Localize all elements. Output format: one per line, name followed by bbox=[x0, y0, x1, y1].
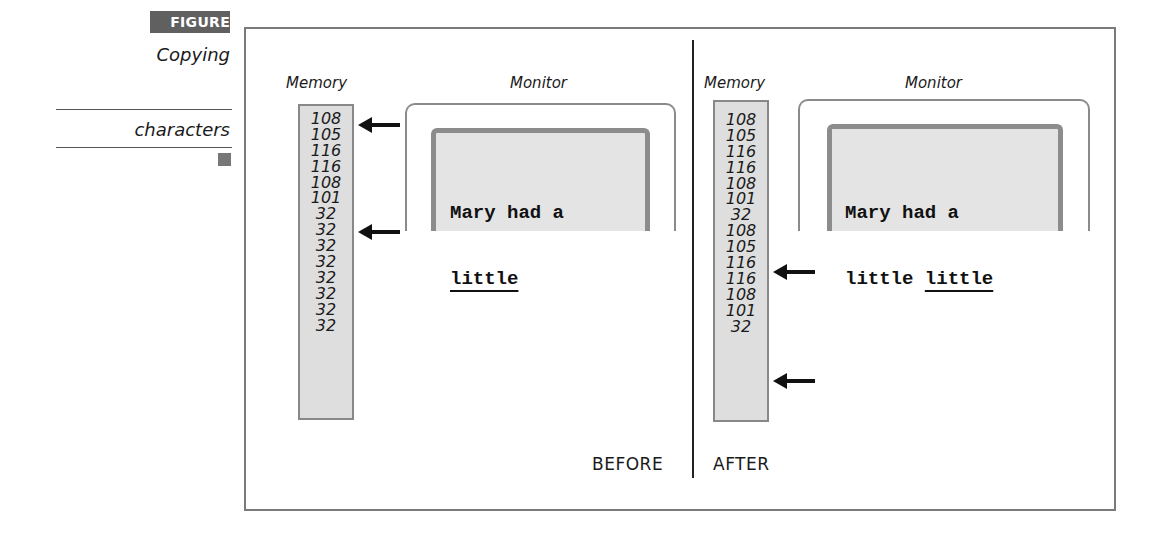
before-monitor-label: Monitor bbox=[510, 74, 567, 92]
before-memory-column: 108 105 116 116 108 101 32 32 32 32 32 3… bbox=[298, 104, 354, 420]
arrow-left-icon bbox=[358, 117, 402, 133]
before-monitor-screen: Mary had a little bbox=[431, 128, 650, 231]
arrow-left-icon bbox=[773, 264, 817, 280]
screen-line-2-plain: little bbox=[845, 268, 925, 290]
arrow-left-icon bbox=[773, 373, 817, 389]
after-monitor-label: Monitor bbox=[905, 74, 962, 92]
before-label: BEFORE bbox=[592, 454, 663, 474]
memory-cell: 32 bbox=[300, 318, 352, 334]
caption-rule-top bbox=[56, 109, 232, 110]
arrow-left-icon bbox=[358, 224, 402, 240]
after-memory-column: 108 105 116 116 108 101 32 108 105 116 1… bbox=[713, 100, 769, 422]
after-label: AFTER bbox=[713, 454, 770, 474]
before-memory-label: Memory bbox=[286, 74, 347, 92]
screen-line-2-underlined: little bbox=[925, 268, 993, 290]
figure-badge: FIGURE 16-3 bbox=[150, 11, 230, 33]
after-monitor-screen: Mary had a little little bbox=[827, 124, 1063, 231]
caption-line-1: Copying bbox=[157, 44, 231, 65]
screen-line-1: Mary had a bbox=[845, 202, 993, 224]
screen-line-2: little bbox=[450, 268, 564, 290]
screen-line-1: Mary had a bbox=[450, 202, 564, 224]
caption-rule-bottom bbox=[56, 147, 232, 148]
screen-line-2: little little bbox=[845, 268, 993, 290]
memory-cell: 32 bbox=[715, 319, 767, 335]
before-after-divider bbox=[692, 40, 694, 478]
decorative-square bbox=[218, 153, 231, 166]
after-memory-label: Memory bbox=[704, 74, 765, 92]
caption-line-2: characters bbox=[134, 119, 230, 140]
